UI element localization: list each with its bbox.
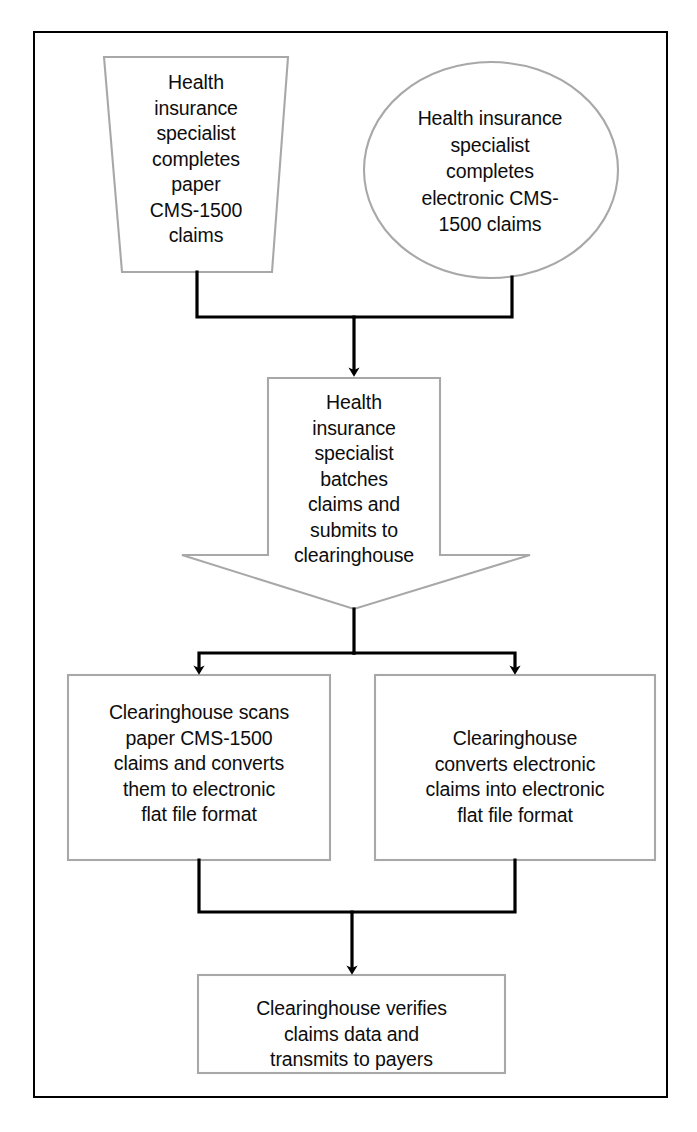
node-shape-batch-submit	[182, 378, 530, 609]
connector-paper-to-merge	[197, 272, 354, 317]
connector-split-to-convert	[354, 653, 515, 670]
node-shape-paper-claims	[104, 57, 288, 272]
node-shape-scan-paper	[68, 675, 330, 860]
node-shape-verify-transmit	[198, 975, 505, 1073]
connector-convert-to-join	[352, 860, 515, 912]
flowchart-page: Health insurance specialist completes pa…	[0, 0, 697, 1132]
node-shape-convert-electronic	[375, 675, 655, 860]
flowchart-canvas	[0, 0, 697, 1132]
connector-electronic-to-merge	[354, 277, 512, 317]
connector-scan-to-join	[199, 860, 352, 912]
connector-split-to-scan	[199, 653, 354, 670]
node-shape-electronic-claims	[364, 62, 618, 278]
